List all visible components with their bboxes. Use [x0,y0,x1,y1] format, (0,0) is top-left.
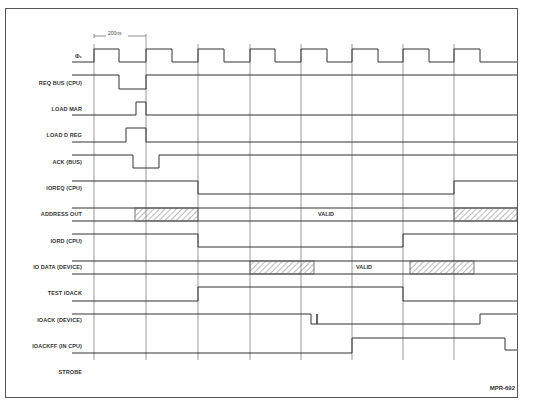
period-label: 200ns [108,30,122,36]
grid-lines [94,34,454,360]
address-hatch-2 [454,208,517,221]
label-ack-bus: ACK (BUS) [52,159,82,165]
signal-iord [72,234,517,247]
label-load-d-reg: LOAD D REG [46,132,82,138]
signal-ioackff [72,338,517,353]
figure-id: MPR-692 [490,385,515,391]
label-ioack: IOACK (DEVICE) [37,317,82,323]
label-ioreq: IOREQ (CPU) [46,185,82,191]
signal-req-bus [72,75,517,89]
iodata-hatch-1 [250,261,314,274]
label-test-ioack: TEST IOACK [48,290,82,296]
label-address-out: ADDRESS OUT [41,211,82,217]
label-ioackff: IOACKFF (IN CPU) [32,343,82,349]
signal-load-mar [72,102,517,115]
address-valid-label: VALID [318,211,334,217]
signal-ioack [72,314,517,324]
signal-ioreq [72,181,517,194]
label-req-bus: REQ BUS (CPU) [39,80,82,86]
label-iord: IORD (CPU) [50,238,82,244]
label-phi1: Φ₁ [75,53,82,59]
signal-load-d-reg [72,128,517,142]
signal-phi1 [72,49,517,62]
label-io-data: IO DATA (DEVICE) [33,264,82,270]
address-hatch-1 [135,208,198,221]
iodata-hatch-2 [410,261,474,274]
label-load-mar: LOAD MAR [52,106,82,112]
signal-ack-bus [72,155,517,168]
label-strobe: STROBE [58,369,82,375]
signal-test-ioack [72,287,517,301]
iodata-valid-label: VALID [356,264,372,270]
